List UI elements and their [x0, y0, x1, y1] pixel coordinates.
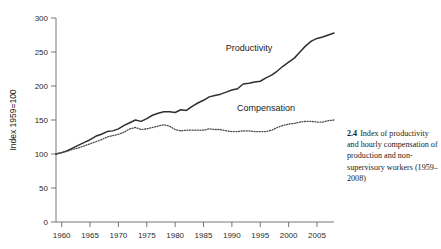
x-tick-label: 1985 — [195, 231, 213, 240]
chart-plot-area: 050100150200250300 Index 1959=100 196019… — [0, 0, 340, 249]
y-tick-label: 300 — [35, 14, 49, 23]
x-tick-label: 1965 — [81, 231, 99, 240]
x-tick-label: 1970 — [110, 231, 128, 240]
series-label-productivity: Productivity — [226, 43, 273, 53]
y-tick-label: 100 — [35, 150, 49, 159]
y-axis: 050100150200250300 Index 1959=100 — [8, 14, 56, 227]
data-series-group — [56, 33, 334, 154]
x-axis: 1960196519701975198019851990199520002005 — [53, 222, 334, 240]
x-axis-ticks: 1960196519701975198019851990199520002005 — [53, 222, 327, 240]
series-annotations: ProductivityCompensation — [226, 43, 295, 114]
x-tick-label: 1980 — [166, 231, 184, 240]
y-tick-label: 0 — [44, 218, 49, 227]
y-tick-label: 50 — [39, 184, 48, 193]
figure-number: 2.4 — [347, 129, 357, 138]
series-line-productivity — [56, 33, 334, 154]
line-chart: 050100150200250300 Index 1959=100 196019… — [0, 0, 340, 249]
figure-container: 050100150200250300 Index 1959=100 196019… — [0, 0, 441, 249]
figure-caption-text: Index of productivity and hourly compens… — [347, 129, 438, 183]
x-tick-label: 1975 — [138, 231, 156, 240]
y-axis-title: Index 1959=100 — [8, 89, 18, 150]
x-tick-label: 2000 — [280, 231, 298, 240]
figure-caption: 2.4Index of productivity and hourly comp… — [347, 128, 439, 184]
y-tick-label: 250 — [35, 48, 49, 57]
y-tick-label: 200 — [35, 82, 49, 91]
x-tick-label: 1990 — [223, 231, 241, 240]
x-tick-label: 2005 — [308, 231, 326, 240]
series-label-compensation: Compensation — [237, 103, 295, 113]
x-tick-label: 1960 — [53, 231, 71, 240]
x-tick-label: 1995 — [251, 231, 269, 240]
series-line-compensation — [56, 120, 334, 154]
y-tick-label: 150 — [35, 116, 49, 125]
y-axis-ticks: 050100150200250300 — [35, 14, 56, 227]
